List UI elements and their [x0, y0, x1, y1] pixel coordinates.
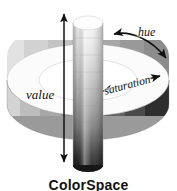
cylinder-top-cap: [73, 16, 103, 30]
label-value: value: [26, 88, 54, 101]
label-hue: hue: [138, 26, 155, 38]
figure-caption: ColorSpace: [0, 178, 177, 191]
value-cylinder: [73, 16, 103, 172]
color-space-figure: value hue saturation ColorSpace: [0, 0, 177, 191]
cylinder-bottom-cap: [73, 165, 103, 172]
